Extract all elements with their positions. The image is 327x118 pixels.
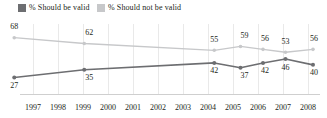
data-point-marker[interactable]	[284, 50, 288, 54]
x-tick-label: 2003	[175, 103, 191, 112]
data-point-labels: 6862555956535627354237424640	[10, 22, 318, 90]
data-point-value-label: 35	[85, 73, 93, 82]
x-tick-label: 2002	[150, 103, 166, 112]
chart-container: % Should be valid % Should not be valid …	[0, 0, 327, 118]
data-point-marker[interactable]	[212, 61, 216, 65]
data-point-marker[interactable]	[261, 48, 265, 52]
data-point-value-label: 68	[10, 22, 18, 31]
data-point-value-label: 62	[85, 28, 93, 37]
x-tick-label: 1997	[25, 103, 41, 112]
x-tick-label: 2000	[100, 103, 116, 112]
data-point-value-label: 40	[310, 68, 318, 77]
data-point-value-label: 56	[310, 34, 318, 43]
x-tick-label: 2007	[275, 103, 291, 112]
data-point-marker[interactable]	[284, 57, 288, 61]
data-point-marker[interactable]	[12, 36, 16, 40]
data-point-value-label: 42	[210, 66, 218, 75]
data-point-value-label: 37	[241, 71, 249, 80]
line-chart-plot: 6862555956535627354237424640 19971998199…	[0, 0, 327, 118]
data-point-value-label: 46	[282, 63, 290, 72]
data-point-marker[interactable]	[311, 63, 315, 67]
x-axis-tick-labels: 1997199819992000200120022003200420052006…	[25, 103, 316, 112]
data-point-marker[interactable]	[311, 48, 315, 52]
data-point-value-label: 59	[241, 31, 249, 40]
data-point-value-label: 27	[10, 81, 18, 90]
data-point-marker[interactable]	[212, 49, 216, 53]
x-tick-label: 1999	[75, 103, 91, 112]
data-point-marker[interactable]	[82, 42, 86, 46]
data-point-marker[interactable]	[82, 68, 86, 72]
x-tick-label: 2004	[200, 103, 216, 112]
data-point-value-label: 56	[261, 34, 269, 43]
data-point-marker[interactable]	[261, 61, 265, 65]
x-tick-label: 2008	[300, 103, 316, 112]
x-tick-label: 2005	[225, 103, 241, 112]
x-tick-label: 2001	[125, 103, 141, 112]
data-point-value-label: 55	[210, 35, 218, 44]
data-point-marker[interactable]	[239, 66, 243, 70]
data-point-marker[interactable]	[12, 75, 16, 79]
data-point-marker[interactable]	[239, 45, 243, 49]
x-tick-label: 1998	[50, 103, 66, 112]
data-point-value-label: 42	[261, 66, 269, 75]
x-tick-label: 2006	[250, 103, 266, 112]
data-point-value-label: 53	[282, 37, 290, 46]
data-series-layer	[12, 36, 315, 80]
